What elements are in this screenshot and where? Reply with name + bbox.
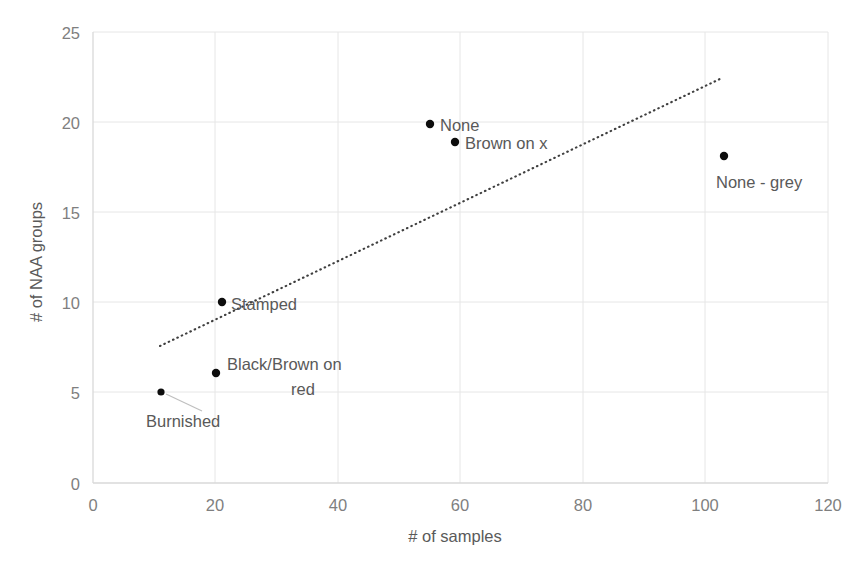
point-label-brown-on-x: Brown on x [465, 134, 548, 152]
data-point-brown-on-x[interactable] [451, 138, 459, 146]
point-label-none-grey: None - grey [716, 173, 803, 191]
data-point-burnished[interactable] [157, 388, 164, 395]
point-label-burnished: Burnished [146, 412, 220, 430]
data-point-black-brown-on-red[interactable] [212, 369, 220, 377]
data-point-stamped[interactable] [218, 298, 226, 306]
x-axis-tick-labels: 0 20 40 60 80 100 120 [88, 496, 841, 514]
data-point-none-grey[interactable] [720, 152, 728, 160]
point-label-stamped: Stamped [231, 295, 297, 313]
point-label-black-brown-on-red-line1: Black/Brown on [227, 355, 342, 373]
x-axis-title: # of samples [408, 527, 502, 545]
y-tick-label-15: 15 [62, 204, 80, 222]
y-tick-label-10: 10 [62, 294, 80, 312]
y-tick-label-20: 20 [62, 114, 80, 132]
x-tick-label-40: 40 [329, 496, 347, 514]
y-tick-label-25: 25 [62, 24, 80, 42]
y-axis-tick-labels: 25 20 15 10 5 0 [62, 24, 80, 493]
x-tick-label-120: 120 [814, 496, 842, 514]
x-tick-label-100: 100 [691, 496, 719, 514]
y-tick-label-5: 5 [71, 384, 80, 402]
x-tick-label-20: 20 [206, 496, 224, 514]
chart-canvas: None Brown on x None - grey Stamped Blac… [0, 0, 863, 567]
x-tick-label-80: 80 [574, 496, 592, 514]
data-point-none[interactable] [426, 120, 434, 128]
scatter-chart: None Brown on x None - grey Stamped Blac… [0, 0, 863, 567]
y-axis-title: # of NAA groups [27, 202, 45, 322]
point-label-none: None [440, 116, 479, 134]
x-tick-label-0: 0 [88, 496, 97, 514]
point-label-black-brown-on-red-line2: red [291, 380, 315, 398]
y-tick-label-0: 0 [71, 475, 80, 493]
x-tick-label-60: 60 [451, 496, 469, 514]
